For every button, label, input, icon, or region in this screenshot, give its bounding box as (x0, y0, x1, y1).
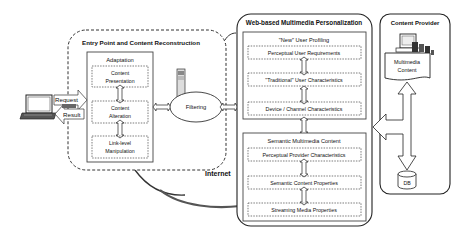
filtering-label: Filtering (186, 104, 207, 110)
horizontal-double-arrow-icon (220, 103, 238, 111)
perceptual-provider-characteristics-label: Perceptual Provider Characteristics (262, 152, 345, 158)
personalization-title: Web-based Multimedia Personalization (246, 19, 363, 26)
multimedia-content-label-1: Multimedia (394, 59, 420, 65)
semantic-content-properties-label: Semantic Content Properties (270, 180, 338, 186)
content-alteration-label-1: Content (111, 105, 130, 111)
db-label: DB (403, 180, 411, 186)
request-label: Request (55, 96, 78, 103)
link-level-label-2: Manipulation (105, 148, 135, 154)
entry-point-title: Entry Point and Content Reconstruction (82, 39, 200, 46)
link-level-label-1: Link-level (109, 140, 131, 146)
semantic-content-title: Semantic Multimedia Content (267, 138, 341, 144)
streaming-media-properties-label: Streaming Media Properties (271, 207, 337, 213)
perceptual-user-requirements-label: Perceptual User Requirements (268, 50, 341, 56)
server-icon (177, 69, 185, 97)
content-presentation-label-1: Content (111, 70, 130, 76)
result-label: Result (63, 111, 81, 118)
personalization-architecture-diagram: Internet Entry Point and Content Reconst… (0, 0, 458, 244)
internet-label: Internet (205, 170, 231, 177)
content-presentation-label-2: Presentation (105, 78, 134, 84)
multimedia-content-label-2: Content (398, 67, 417, 73)
adaptation-title: Adaptation (106, 57, 134, 63)
traditional-user-characteristics-label: "Traditional" User Characteristics (265, 77, 343, 83)
database-icon: DB (398, 171, 416, 189)
device-channel-characteristics-label: Device / Channel Characteristics (266, 106, 343, 112)
user-profiling-title: "New" User Profiling (279, 37, 329, 43)
content-alteration-label-2: Alteration (109, 113, 131, 119)
laptop-icon (20, 95, 56, 119)
content-provider-title: Content Provider (391, 20, 440, 26)
